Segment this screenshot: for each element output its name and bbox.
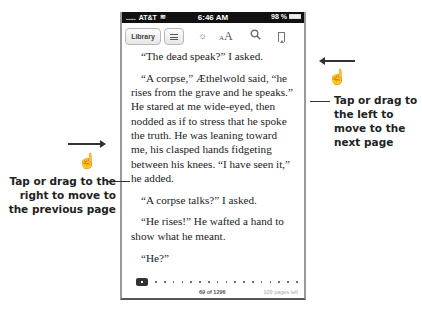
paragraph: “A corpse,” Æthelwold said, “he rises fr…	[131, 71, 296, 185]
scrubber-dot	[164, 281, 166, 283]
scrubber-dot	[173, 281, 175, 283]
scrubber-dot	[217, 281, 219, 283]
left-arrow-icon	[325, 60, 355, 62]
scrubber-dot	[155, 281, 157, 283]
right-arrow-icon	[68, 143, 100, 145]
callout-leader-line	[310, 101, 330, 102]
hand-pointer-icon: ☝	[328, 68, 347, 86]
scrubber-dot	[199, 281, 201, 283]
pages-left: 109 pages left	[263, 289, 298, 295]
font-big-glyph: A	[224, 29, 233, 43]
scrubber-dot	[296, 281, 298, 283]
paragraph: “He?”	[131, 251, 296, 265]
reader-toolbar: Library ☼ AA	[122, 25, 304, 47]
battery-icon	[289, 14, 301, 19]
status-bar: ..... AT&T ≋ 6:46 AM 98 %	[122, 12, 304, 23]
scrubber-dot	[243, 281, 245, 283]
scrubber-dot	[226, 281, 228, 283]
search-icon[interactable]	[250, 27, 261, 45]
scrubber-dot	[208, 281, 210, 283]
paragraph: “He rises!” He wafted a hand to show wha…	[131, 214, 296, 243]
battery-status: 98 %	[271, 13, 301, 20]
ibooks-screen: ..... AT&T ≋ 6:46 AM 98 % Library ☼ AA “…	[120, 12, 306, 300]
library-button[interactable]: Library	[125, 28, 161, 45]
brightness-icon[interactable]: ☼	[198, 27, 207, 45]
page-position: 69 of 1296	[199, 289, 226, 295]
scrubber-dot	[252, 281, 254, 283]
battery-percent: 98 %	[271, 13, 287, 20]
scrubber-dot	[287, 281, 289, 283]
scrubber-dot	[234, 281, 236, 283]
scrubber-thumb[interactable]	[136, 278, 148, 286]
paragraph: “A corpse talks?” I asked.	[131, 193, 296, 207]
table-of-contents-button[interactable]	[164, 28, 184, 45]
page-scrubber[interactable]	[136, 278, 294, 286]
previous-page-callout: Tap or drag to the right to move to the …	[4, 174, 116, 216]
scrubber-dot	[270, 281, 272, 283]
scrubber-dot	[278, 281, 280, 283]
bookmark-icon[interactable]	[278, 32, 285, 42]
scrubber-dot	[182, 281, 184, 283]
next-page-callout: Tap or drag to the left to move to the n…	[334, 93, 422, 149]
font-size-icon[interactable]: AA	[219, 27, 233, 47]
paragraph: “The dead speak?” I asked.	[131, 49, 296, 63]
list-icon	[170, 34, 178, 40]
hand-pointer-icon: ☝	[78, 152, 97, 170]
book-page[interactable]: “The dead speak?” I asked. “A corpse,” Æ…	[131, 49, 296, 272]
scrubber-dot	[261, 281, 263, 283]
scrubber-dot	[190, 281, 192, 283]
